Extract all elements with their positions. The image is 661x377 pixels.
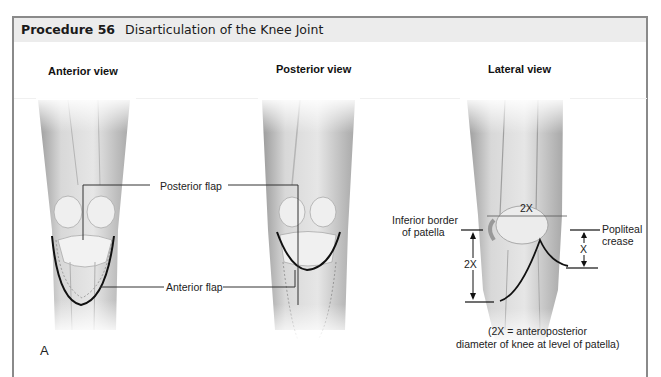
caption-line1: (2X = anteroposterior [488, 325, 587, 337]
lateral-view-label: Lateral view [488, 63, 551, 75]
anterior-knee-drawing [36, 96, 136, 336]
anterior-view-label: Anterior view [48, 65, 118, 77]
posterior-view-label: Posterior view [276, 63, 351, 75]
inferior-border-label-line1: Inferior border [392, 214, 458, 226]
posterior-flap-label: Posterior flap [160, 180, 222, 192]
popliteal-crease-label-line1: Popliteal [602, 223, 642, 235]
inferior-border-label-line2: of patella [402, 226, 445, 238]
anterior-flap-label: Anterior flap [166, 281, 223, 293]
popliteal-crease-label-line2: crease [602, 235, 634, 247]
dimension-2x-top: 2X [520, 202, 533, 214]
panel-letter: A [40, 345, 49, 357]
caption-line2: diameter of knee at level of patella) [456, 338, 619, 350]
posterior-knee-drawing [258, 96, 360, 341]
knee-illustrations [0, 0, 661, 377]
dimension-x-right: X [580, 243, 587, 255]
dimension-2x-left: 2X [464, 258, 477, 270]
lateral-knee-drawing [460, 96, 570, 346]
